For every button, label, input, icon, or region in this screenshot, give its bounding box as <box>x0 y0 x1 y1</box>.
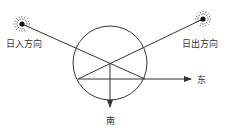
sunset-direction-line <box>22 24 145 79</box>
south-label: 南 <box>106 115 115 126</box>
sunset-sun-icon <box>14 16 30 32</box>
sun-direction-diagram: 日入方向 日出方向 东 南 <box>0 0 227 131</box>
sunrise-sun-icon <box>195 11 211 27</box>
sunrise-direction-label: 日出方向 <box>182 38 218 49</box>
east-label: 东 <box>197 74 206 85</box>
sunset-direction-label: 日入方向 <box>6 38 42 49</box>
